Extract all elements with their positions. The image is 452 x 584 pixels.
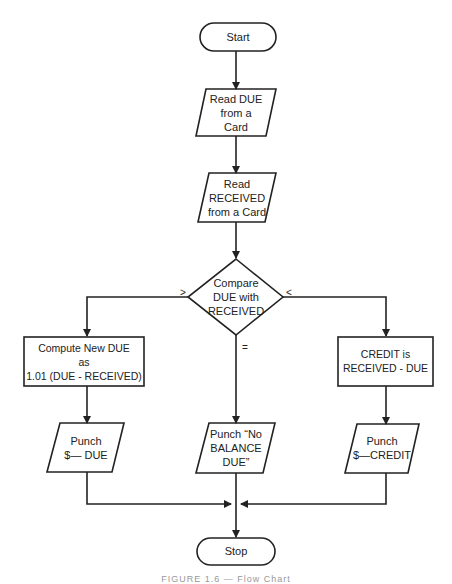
punch-credit-line-1: Punch xyxy=(345,434,419,448)
read-due-label: Read DUE from a Card xyxy=(196,92,276,134)
credit-line-2: RECEIVED - DUE xyxy=(338,361,433,375)
punch-due-label: Punch $— DUE xyxy=(48,434,124,462)
punch-no-balance-label: Punch “No BALANCE DUE” xyxy=(196,427,276,469)
punch-due-line-1: Punch xyxy=(48,434,124,448)
stop-label: Stop xyxy=(197,544,275,558)
compare-label: Compare DUE with RECEIVED xyxy=(196,276,276,318)
read-received-line-2: RECEIVED xyxy=(198,191,276,205)
punch-credit-label: Punch $—CREDIT xyxy=(345,434,419,462)
read-received-label: Read RECEIVED from a Card xyxy=(198,177,276,219)
compute-due-line-1: Compute New DUE xyxy=(24,341,144,355)
less-branch-label: < xyxy=(284,286,294,300)
equal-branch-label: = xyxy=(240,341,250,355)
figure-caption: FIGURE 1.6 — Flow Chart xyxy=(0,574,452,584)
punch-credit-line-2: $—CREDIT xyxy=(345,448,419,462)
read-due-line-1: Read DUE xyxy=(196,92,276,106)
credit-line-1: CREDIT is xyxy=(338,347,433,361)
compare-line-2: DUE with xyxy=(196,290,276,304)
read-due-line-2: from a xyxy=(196,106,276,120)
compare-line-3: RECEIVED xyxy=(196,304,276,318)
compare-line-1: Compare xyxy=(196,276,276,290)
compute-due-line-2: as xyxy=(24,355,144,369)
punch-no-balance-line-1: Punch “No xyxy=(196,427,276,441)
read-due-line-3: Card xyxy=(196,120,276,134)
credit-label: CREDIT is RECEIVED - DUE xyxy=(338,347,433,375)
start-label: Start xyxy=(200,30,276,44)
punch-no-balance-line-3: DUE” xyxy=(196,455,276,469)
punch-due-line-2: $— DUE xyxy=(48,448,124,462)
greater-branch-label: > xyxy=(178,286,188,300)
punch-no-balance-line-2: BALANCE xyxy=(196,441,276,455)
compute-due-label: Compute New DUE as 1.01 (DUE - RECEIVED) xyxy=(24,341,144,383)
compute-due-line-3: 1.01 (DUE - RECEIVED) xyxy=(24,369,144,383)
read-received-line-1: Read xyxy=(198,177,276,191)
read-received-line-3: from a Card xyxy=(198,205,276,219)
